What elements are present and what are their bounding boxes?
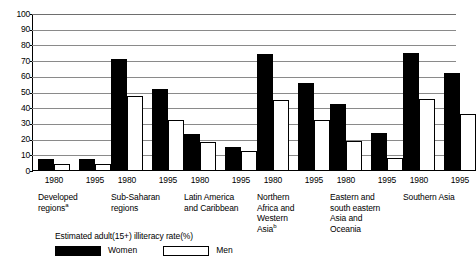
year-bar-pair [184, 14, 216, 171]
year-labels: 19801995 [330, 175, 403, 185]
year-labels: 19801995 [38, 175, 111, 185]
bar-women [79, 159, 95, 171]
year-bar-pair [257, 14, 289, 171]
year-labels: 19801995 [111, 175, 184, 185]
bar-pair-gap [70, 170, 79, 171]
year-bar-pair [403, 14, 435, 171]
bar-group [257, 14, 330, 171]
year-bar-pair [371, 14, 403, 171]
bar-men [273, 100, 289, 171]
bar-women [330, 104, 346, 171]
year-label: 1980 [111, 175, 143, 185]
y-tick-label: 40 [4, 104, 30, 113]
y-tick-label: 10 [4, 151, 30, 160]
y-tick-label: 100 [4, 10, 30, 19]
year-label: 1995 [225, 175, 257, 185]
year-label: 1980 [403, 175, 435, 185]
year-label-spacer [289, 175, 298, 185]
year-label-spacer [362, 175, 371, 185]
year-label: 1980 [330, 175, 362, 185]
legend: Estimated adult(15+) illiteracy rate(%) … [55, 231, 385, 256]
year-label: 1995 [371, 175, 403, 185]
bar-pair-gap [362, 170, 371, 171]
year-labels: 19801995 [257, 175, 330, 185]
region-footnote-marker: b [273, 223, 276, 229]
bar-women [38, 159, 54, 171]
year-label-spacer [143, 175, 152, 185]
region-label: Developed regionsa [38, 192, 111, 213]
region-label: Sub-Saharan regions [111, 192, 184, 213]
year-labels: 19801995 [403, 175, 476, 185]
legend-label-men: Men [216, 245, 233, 256]
year-labels: 19801995 [184, 175, 257, 185]
x-axis-group: 19801995Southern Asia [403, 175, 476, 253]
bar-group [111, 14, 184, 171]
legend-swatch-men [163, 246, 209, 256]
bar-men [346, 141, 362, 171]
y-axis: 1009080706050403020100 [0, 14, 30, 171]
year-label: 1995 [79, 175, 111, 185]
y-tick-label: 60 [4, 72, 30, 81]
bar-men [314, 120, 330, 171]
year-label: 1980 [184, 175, 216, 185]
plot-area [32, 14, 456, 171]
year-bar-pair [444, 14, 476, 171]
bar-women [184, 134, 200, 171]
year-bar-pair [79, 14, 111, 171]
year-bar-pair [152, 14, 184, 171]
bar-groups [32, 14, 456, 171]
year-label-spacer [435, 175, 444, 185]
legend-entries: Women Men [55, 245, 385, 256]
year-bar-pair [111, 14, 143, 171]
bar-group [330, 14, 403, 171]
bar-group [184, 14, 257, 171]
year-label: 1980 [257, 175, 289, 185]
bar-women [371, 133, 387, 171]
year-label: 1980 [38, 175, 70, 185]
year-bar-pair [298, 14, 330, 171]
bar-men [54, 164, 70, 171]
legend-swatch-women [55, 246, 101, 256]
region-label: Northern Africa and Western Asiab [257, 192, 330, 234]
year-label-spacer [70, 175, 79, 185]
bar-women [111, 59, 127, 171]
legend-title: Estimated adult(15+) illiteracy rate(%) [55, 231, 385, 242]
bar-men [127, 96, 143, 171]
legend-label-women: Women [108, 245, 137, 256]
region-label: Latin America and Caribbean [184, 192, 257, 213]
year-label: 1995 [298, 175, 330, 185]
y-tick-label: 20 [4, 135, 30, 144]
y-tick-label: 30 [4, 119, 30, 128]
bar-pair-gap [435, 170, 444, 171]
bar-women [444, 73, 460, 171]
bar-pair-gap [289, 170, 298, 171]
y-tick-label: 0 [4, 167, 30, 176]
region-footnote-marker: a [65, 202, 68, 208]
bar-pair-gap [216, 170, 225, 171]
y-tick-label: 80 [4, 41, 30, 50]
region-label: Eastern and south eastern Asia and Ocean… [330, 192, 403, 234]
region-label: Southern Asia [403, 192, 476, 203]
bar-men [241, 151, 257, 171]
bar-women [225, 147, 241, 171]
y-tick-label: 50 [4, 88, 30, 97]
bar-group [403, 14, 476, 171]
y-tick-label: 90 [4, 25, 30, 34]
year-label: 1995 [152, 175, 184, 185]
y-tick-label: 70 [4, 57, 30, 66]
bar-group [38, 14, 111, 171]
bar-pair-gap [143, 170, 152, 171]
year-bar-pair [38, 14, 70, 171]
bar-men [387, 158, 403, 171]
bar-women [257, 54, 273, 171]
year-label-spacer [216, 175, 225, 185]
bar-men [419, 99, 435, 171]
bar-men [168, 120, 184, 171]
year-bar-pair [225, 14, 257, 171]
bar-men [200, 142, 216, 171]
bar-men [460, 114, 476, 171]
bar-women [298, 83, 314, 171]
bar-women [152, 89, 168, 171]
year-label: 1995 [444, 175, 476, 185]
